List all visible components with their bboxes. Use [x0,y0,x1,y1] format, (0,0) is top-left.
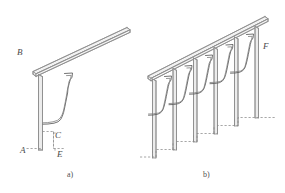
baluster-profile-b-4 [210,45,233,84]
newel-post-b-2 [173,69,177,151]
label-f: F [263,42,269,51]
baluster-profile-b-2 [169,66,192,105]
caption-panel-b: b) [203,171,210,179]
baluster-profile-b-5 [231,34,254,73]
caption-panel-a: a) [67,171,73,179]
newel-post-b-4 [214,48,218,135]
label-c: C [55,131,61,140]
handrail-a [33,28,130,77]
label-e: E [57,150,63,159]
newel-post-b-6 [255,27,259,119]
baluster-profile-b-1 [149,76,172,115]
line-drawing-canvas: .ln { fill:none; stroke:#8f8f8f; stroke-… [0,0,285,193]
newel-post-a [39,75,43,150]
newel-post-b-5 [235,37,239,126]
newel-post-b-3 [194,58,198,142]
panel-a-drawing [27,28,131,152]
label-a: A [20,146,26,155]
stair-steps-b [140,118,276,158]
baluster-profile-b-3 [190,55,213,94]
panel-b-drawing [140,17,276,159]
newel-post-b-1 [153,79,157,158]
figure-container: .ln { fill:none; stroke:#8f8f8f; stroke-… [0,0,285,193]
baluster-profile-a [43,73,73,124]
label-b: B [17,48,23,57]
